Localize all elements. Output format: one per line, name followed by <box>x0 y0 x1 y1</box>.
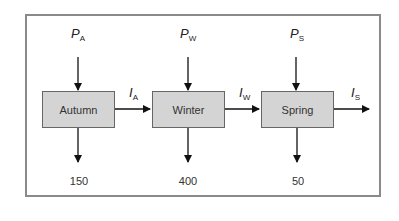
input-label-spring: PS <box>290 26 304 43</box>
node-spring: Spring <box>261 91 334 128</box>
output-value-winter: 400 <box>168 175 208 187</box>
input-label-winter: PW <box>180 26 196 43</box>
node-spring-label: Spring <box>282 104 314 116</box>
transfer-label-spring: IS <box>351 85 360 102</box>
node-winter-label: Winter <box>173 104 205 116</box>
node-winter: Winter <box>152 91 225 128</box>
node-autumn-label: Autumn <box>60 104 98 116</box>
input-label-autumn: PA <box>71 26 85 43</box>
output-value-spring: 50 <box>278 175 318 187</box>
output-value-autumn: 150 <box>59 175 99 187</box>
transfer-label-autumn: IA <box>129 85 138 102</box>
transfer-label-winter: IW <box>239 85 250 102</box>
node-autumn: Autumn <box>42 91 115 128</box>
